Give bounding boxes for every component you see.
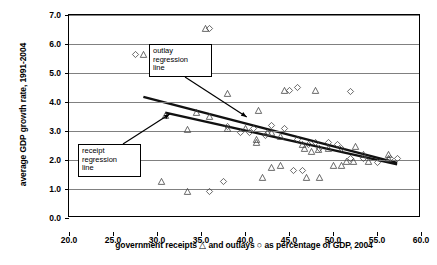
- y-tick-mark: [65, 44, 69, 45]
- x-tick-mark: [201, 232, 202, 236]
- y-axis-title: average GDP growth rate, 1991-2004: [12, 0, 34, 247]
- annotation-leader-arrow: [117, 108, 176, 150]
- y-tick-label: 4.0: [29, 97, 61, 107]
- y-gridline: [69, 189, 419, 190]
- y-tick-mark: [65, 189, 69, 190]
- y-tick-mark: [65, 102, 69, 103]
- x-tick-mark: [245, 232, 246, 236]
- x-tick-mark: [377, 232, 378, 236]
- y-tick-mark: [65, 73, 69, 74]
- x-tick-mark: [333, 232, 334, 236]
- y-tick-label: 3.0: [29, 126, 61, 136]
- y-gridline: [69, 44, 419, 45]
- y-tick-mark: [65, 131, 69, 132]
- y-tick-label: 1.0: [29, 184, 61, 194]
- x-tick-mark: [289, 232, 290, 236]
- y-tick-mark: [65, 218, 69, 219]
- y-gridline: [69, 15, 419, 16]
- y-tick-label: 0.0: [29, 213, 61, 223]
- annotation-line: line: [82, 164, 137, 173]
- x-tick-mark: [157, 232, 158, 236]
- y-tick-label: 6.0: [29, 39, 61, 49]
- y-tick-label: 7.0: [29, 10, 61, 20]
- y-tick-mark: [65, 160, 69, 161]
- x-tick-mark: [421, 232, 422, 236]
- chart-figure: average GDP growth rate, 1991-2004 0.01.…: [0, 0, 437, 265]
- annotation-leader-arrow: [179, 71, 253, 123]
- y-tick-label: 2.0: [29, 155, 61, 165]
- x-tick-mark: [113, 232, 114, 236]
- y-tick-label: 5.0: [29, 68, 61, 78]
- y-tick-mark: [65, 15, 69, 16]
- x-tick-mark: [69, 232, 70, 236]
- x-axis-title: government receipts △ and outlays ○ as p…: [68, 240, 420, 250]
